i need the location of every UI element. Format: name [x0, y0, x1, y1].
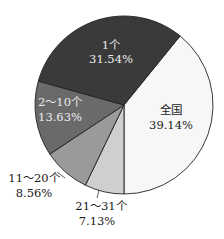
label-21-31-name: 21～31个	[75, 199, 127, 213]
label-1-value: 31.54%	[89, 52, 133, 66]
label-national-name: 全国	[160, 103, 182, 117]
label-11-20-name: 11～20个	[8, 171, 60, 185]
label-2-10-value: 13.63%	[38, 110, 82, 124]
leader-line-21-31	[97, 190, 99, 198]
label-1-name: 1个	[102, 38, 121, 52]
label-11-20-value: 8.56%	[16, 186, 53, 200]
label-21-31-value: 7.13%	[79, 214, 116, 228]
pie-chart: 1个 31.54% 2～10个 13.63% 全国 39.14% 11～20个 …	[0, 0, 224, 239]
label-national-value: 39.14%	[149, 118, 193, 132]
label-2-10-name: 2～10个	[38, 95, 83, 109]
